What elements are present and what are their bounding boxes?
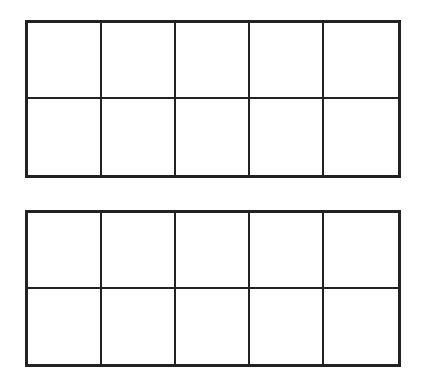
- ten-frame-cell: [28, 289, 102, 365]
- ten-frame-cell: [176, 99, 250, 175]
- ten-frame-cell: [28, 23, 102, 99]
- ten-frame-cell: [176, 213, 250, 289]
- ten-frame-cell: [250, 99, 324, 175]
- ten-frame-cell: [250, 23, 324, 99]
- ten-frame-cell: [324, 23, 398, 99]
- ten-frame-cell: [176, 23, 250, 99]
- ten-frame-top: [25, 20, 401, 178]
- ten-frame-cell: [324, 99, 398, 175]
- ten-frame-cell: [102, 99, 176, 175]
- ten-frame-cell: [102, 23, 176, 99]
- ten-frame-cell: [102, 289, 176, 365]
- ten-frame-cell: [324, 289, 398, 365]
- ten-frame-cell: [28, 213, 102, 289]
- ten-frame-cell: [250, 289, 324, 365]
- ten-frame-cell: [324, 213, 398, 289]
- ten-frame-bottom: [25, 210, 401, 367]
- ten-frame-cell: [176, 289, 250, 365]
- ten-frame-cell: [102, 213, 176, 289]
- ten-frame-cell: [28, 99, 102, 175]
- ten-frame-cell: [250, 213, 324, 289]
